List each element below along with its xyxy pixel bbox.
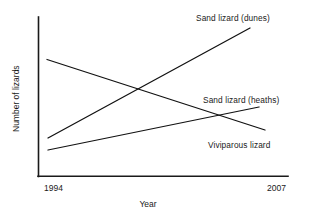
- x-axis-title: Year: [139, 199, 156, 209]
- series-label-viviparous-lizard: Viviparous lizard: [208, 140, 271, 150]
- series-label-sand-lizard-dunes: Sand lizard (dunes): [196, 13, 270, 23]
- chart-canvas: Number of lizards Year 1994 2007 Sand li…: [0, 0, 311, 216]
- series-label-sand-lizard-heaths: Sand lizard (heaths): [203, 95, 279, 105]
- x-tick-label-end: 2007: [267, 183, 286, 193]
- y-axis-title: Number of lizards: [11, 65, 21, 132]
- x-tick-label-start: 1994: [44, 183, 63, 193]
- lizard-population-line-chart: Number of lizards Year 1994 2007 Sand li…: [0, 0, 311, 216]
